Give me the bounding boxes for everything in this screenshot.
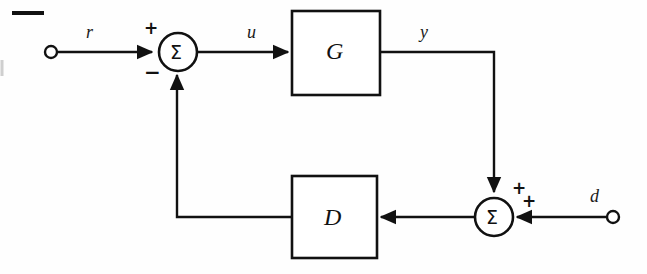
wire-feedback-to-error-sum — [177, 75, 292, 217]
disturbance-terminal-node — [607, 211, 619, 223]
error-junction-plus-sign: + — [144, 20, 158, 37]
error-junction-sigma: Σ — [170, 41, 182, 63]
block-diagram-graphics — [0, 0, 647, 274]
signal-label-d: d — [590, 186, 599, 207]
signal-label-r: r — [86, 22, 93, 43]
disturbance-junction-sigma: Σ — [486, 206, 498, 228]
block-diagram-canvas: r u y d G D Σ Σ + − + + — [0, 0, 647, 274]
signal-label-u: u — [247, 22, 256, 43]
error-junction-minus-sign: − — [144, 62, 161, 82]
controller-block-label: D — [324, 204, 341, 231]
signal-label-y: y — [420, 22, 428, 43]
plant-block-label: G — [326, 38, 343, 65]
reference-terminal-node — [45, 46, 57, 58]
wire-y-to-disturbance-sum — [380, 52, 494, 192]
disturbance-junction-plus-sign-right: + — [522, 193, 536, 210]
